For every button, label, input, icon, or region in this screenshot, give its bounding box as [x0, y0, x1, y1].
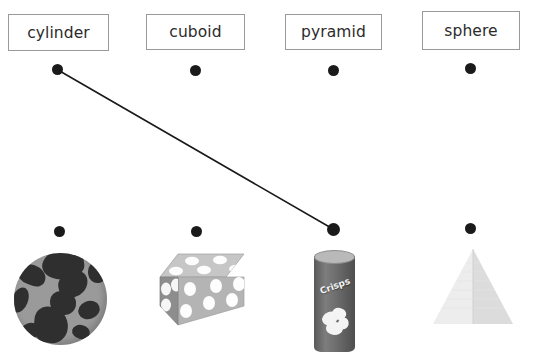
crisps-tube-picture[interactable]: Crisps crisps tube [314, 250, 355, 352]
crisps-tube-dot[interactable] [327, 223, 340, 236]
sphere-word-dot[interactable] [465, 63, 476, 74]
pyramid-word-dot[interactable] [328, 65, 339, 76]
word-label-pyramid: pyramid [301, 23, 366, 41]
pyramid-alt-text: pyramid [516, 248, 517, 249]
dice-block-picture[interactable]: spotted block [152, 253, 252, 327]
globe-alt-text: globe [14, 253, 15, 254]
word-label-cuboid: cuboid [169, 23, 221, 41]
cuboid-word-dot[interactable] [190, 65, 201, 76]
worksheet-canvas: cylinder cuboid pyramid sphere [0, 0, 534, 356]
globe-dot[interactable] [54, 226, 65, 237]
crisps-tube-alt-text: crisps tube [314, 250, 315, 251]
dice-block-alt-text: spotted block [252, 253, 253, 254]
word-box-pyramid[interactable]: pyramid [285, 14, 382, 50]
globe-sphere-body [14, 253, 107, 345]
word-box-cylinder[interactable]: cylinder [8, 14, 109, 51]
word-box-sphere[interactable]: sphere [422, 11, 520, 50]
crisps-tube-body [314, 256, 355, 352]
cuboid-svg [152, 253, 252, 327]
word-box-cuboid[interactable]: cuboid [146, 14, 245, 50]
pyramid-dot[interactable] [465, 223, 476, 234]
word-label-cylinder: cylinder [27, 24, 90, 42]
answer-line-cylinder-to-crisps-tube [58, 70, 333, 229]
dice-block-dot[interactable] [191, 226, 202, 237]
pyramid-picture[interactable]: pyramid [430, 248, 516, 326]
crisps-tube-lid [314, 250, 355, 264]
pyramid-svg [430, 248, 516, 326]
word-label-sphere: sphere [444, 22, 497, 40]
globe-picture[interactable]: globe [14, 253, 107, 345]
cylinder-word-dot[interactable] [52, 64, 63, 75]
